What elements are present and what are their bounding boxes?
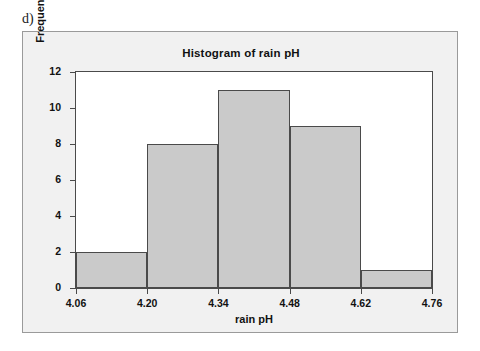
x-axis-tick-label: 4.48 — [279, 297, 299, 309]
y-axis: 024681012 — [76, 72, 432, 288]
chart-title: Histogram of rain pH — [23, 47, 459, 59]
x-axis-tick: 4.20 — [147, 288, 148, 294]
y-axis-title-wrap: Frequency — [30, 71, 248, 85]
y-axis-tick-label: 10 — [49, 101, 61, 113]
x-axis-tick: 4.76 — [432, 288, 433, 294]
y-axis-tick: 8 — [70, 144, 76, 145]
y-axis-title: Frequency — [34, 0, 48, 124]
x-axis-tick-label: 4.34 — [208, 297, 228, 309]
y-axis-tick: 2 — [70, 252, 76, 253]
y-axis-tick: 10 — [70, 108, 76, 109]
x-axis-tick: 4.48 — [290, 288, 291, 294]
x-axis-tick-label: 4.76 — [422, 297, 442, 309]
y-axis-tick-label: 0 — [55, 281, 61, 293]
y-axis-tick: 6 — [70, 180, 76, 181]
x-axis-tick-label: 4.06 — [66, 297, 86, 309]
x-axis-tick: 4.34 — [218, 288, 219, 294]
y-axis-tick-label: 6 — [55, 173, 61, 185]
y-axis-tick-label: 4 — [55, 209, 61, 221]
plot-area: 024681012 4.064.204.344.484.624.76 — [75, 71, 433, 289]
x-axis-tick: 4.06 — [76, 288, 77, 294]
x-axis-tick-label: 4.20 — [137, 297, 157, 309]
y-axis-tick: 4 — [70, 216, 76, 217]
x-axis-tick-label: 4.62 — [351, 297, 371, 309]
chart-panel: Histogram of rain pH 024681012 4.064.204… — [22, 31, 458, 333]
x-axis-title: rain pH — [75, 313, 433, 325]
figure-root: d) Histogram of rain pH 024681012 4.064.… — [0, 0, 480, 351]
y-axis-tick-label: 2 — [55, 245, 61, 257]
x-axis-tick: 4.62 — [361, 288, 362, 294]
y-axis-tick-label: 8 — [55, 137, 61, 149]
panel-letter: d) — [22, 12, 34, 26]
